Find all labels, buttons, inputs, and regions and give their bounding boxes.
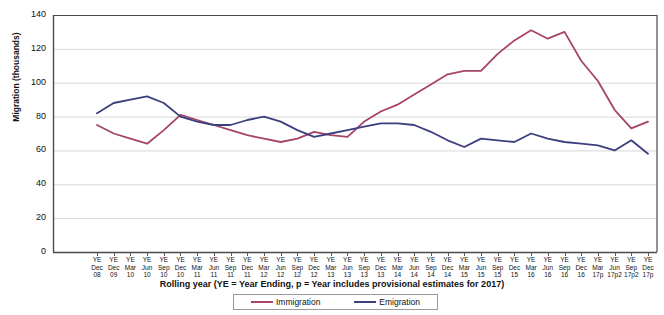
series-line-emigration [97,96,648,154]
legend-item-immigration[interactable]: Immigration [251,297,320,307]
x-axis-title: Rolling year (YE = Year Ending, p = Year… [0,279,664,289]
data-series [97,30,648,154]
legend-label-immigration: Immigration [276,297,320,307]
migration-line-chart: Migration (thousands) 020406080100120140… [0,0,664,315]
legend-swatch-emigration [354,301,376,304]
y-tick-label: 100 [18,78,46,87]
y-tick-label: 0 [18,247,46,256]
legend-swatch-immigration [251,301,273,304]
y-tick-label: 60 [18,145,46,154]
y-axis-ticks: 020406080100120140 [18,0,46,315]
axes [53,15,657,253]
y-tick-label: 80 [18,112,46,121]
legend-label-emigration: Emigration [379,297,420,307]
gridlines [54,49,657,218]
chart-legend: Immigration Emigration [233,294,438,310]
series-line-immigration [97,30,648,144]
legend-item-emigration[interactable]: Emigration [354,297,420,307]
x-tick-label: YEDec17p [635,256,661,279]
y-tick-label: 140 [18,10,46,19]
y-tick-label: 120 [18,44,46,53]
y-tick-label: 20 [18,213,46,222]
y-tick-label: 40 [18,179,46,188]
